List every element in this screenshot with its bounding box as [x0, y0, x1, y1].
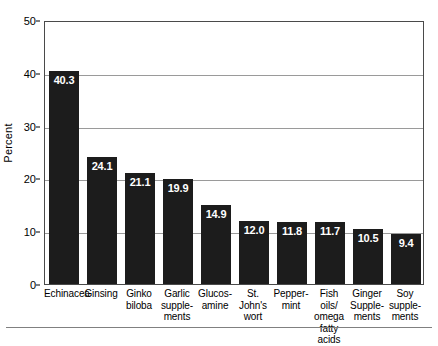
bar[interactable]: 12.0: [239, 221, 269, 284]
y-axis-title-text: Percent: [2, 123, 14, 162]
x-axis-category-label: Fish oils/ omega fatty acids: [310, 288, 348, 346]
y-axis-tick-label: 10: [24, 227, 36, 238]
x-axis-category-label: Soy supple- ments: [386, 288, 424, 323]
plot-area: 40.324.121.119.914.912.011.811.710.59.4: [44, 21, 424, 285]
x-axis-category-label: Ginger Supple- ments: [348, 288, 386, 323]
bar[interactable]: 19.9: [163, 179, 193, 284]
bar-value-label: 12.0: [239, 224, 269, 236]
x-axis-category-label: Glucos- amine: [196, 288, 234, 311]
y-axis-tick-mark: [36, 126, 40, 127]
bar-series: 40.324.121.119.914.912.011.811.710.59.4: [45, 22, 423, 284]
y-axis-tick-labels: 01020304050: [14, 0, 40, 290]
y-axis-tick-label: 20: [24, 174, 36, 185]
y-axis-tick-mark: [36, 179, 40, 180]
x-axis-category-label: Echinacea: [44, 288, 82, 300]
x-axis-category-label: Ginko biloba: [120, 288, 158, 311]
footer-divider: [6, 327, 432, 328]
bar-value-label: 24.1: [87, 160, 117, 172]
bar-value-label: 10.5: [353, 232, 383, 244]
x-axis-category-label: Garlic supple- ments: [158, 288, 196, 323]
x-axis-category-label: Pepper- mint: [272, 288, 310, 311]
bar[interactable]: 10.5: [353, 229, 383, 284]
y-axis-tick-mark: [36, 232, 40, 233]
x-axis-category-labels: EchinaceaGinsingGinko bilobaGarlic suppl…: [44, 288, 424, 330]
bar-value-label: 11.8: [277, 225, 307, 237]
bar-value-label: 40.3: [49, 74, 79, 86]
bar[interactable]: 11.8: [277, 222, 307, 284]
x-axis-category-label: Ginsing: [82, 288, 120, 300]
y-axis-tick-mark: [36, 285, 40, 286]
y-axis-tick-label: 50: [24, 16, 36, 27]
bar[interactable]: 11.7: [315, 222, 345, 284]
bar-value-label: 14.9: [201, 208, 231, 220]
x-axis-category-label: St. John's wort: [234, 288, 272, 323]
bar[interactable]: 24.1: [87, 157, 117, 284]
bar[interactable]: 14.9: [201, 205, 231, 284]
bar[interactable]: 9.4: [391, 234, 421, 284]
bar-value-label: 21.1: [125, 176, 155, 188]
bar-value-label: 11.7: [315, 225, 345, 237]
bar-value-label: 9.4: [391, 237, 421, 249]
y-axis-tick-label: 40: [24, 68, 36, 79]
bar[interactable]: 21.1: [125, 173, 155, 284]
y-axis-tick-mark: [36, 73, 40, 74]
bar-value-label: 19.9: [163, 182, 193, 194]
y-axis-tick-label: 30: [24, 121, 36, 132]
y-axis-tick-mark: [36, 21, 40, 22]
bar[interactable]: 40.3: [49, 71, 79, 284]
